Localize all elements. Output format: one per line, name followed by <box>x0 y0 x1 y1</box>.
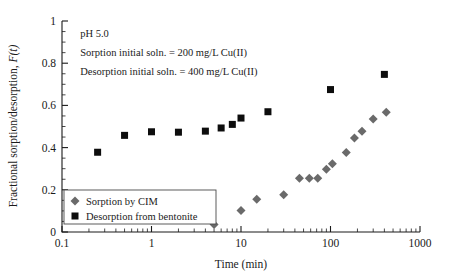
data-point <box>381 71 388 78</box>
legend-label: Sorption by CIM <box>86 196 158 207</box>
data-point <box>175 129 182 136</box>
y-tick-label: 0.2 <box>42 184 57 196</box>
square-marker-icon <box>72 213 79 220</box>
x-tick-label: 100 <box>322 237 340 249</box>
data-point <box>229 121 236 128</box>
annotation-text: Sorption initial soln. = 200 mg/L Cu(II) <box>80 47 247 59</box>
data-point <box>295 174 304 183</box>
x-tick-label: 10 <box>235 237 247 249</box>
data-point <box>252 195 261 204</box>
series-square <box>94 71 388 156</box>
data-point <box>237 206 246 215</box>
data-point <box>369 115 378 124</box>
legend-label: Desorption from bentonite <box>86 211 198 222</box>
data-point <box>305 174 314 183</box>
data-point <box>264 108 271 115</box>
y-tick-label: 0.4 <box>42 142 57 154</box>
data-point <box>238 115 245 122</box>
series-diamond <box>210 108 391 229</box>
data-point <box>202 128 209 135</box>
y-tick-label: 0.8 <box>42 57 57 69</box>
data-point <box>313 174 322 183</box>
y-axis-tick-labels: 00.20.40.60.81 <box>42 15 57 238</box>
data-point <box>279 190 288 199</box>
data-point <box>358 127 367 136</box>
data-point <box>121 132 128 139</box>
data-point <box>327 86 334 93</box>
y-tick-label: 0.6 <box>42 99 57 111</box>
data-point <box>328 159 337 168</box>
chart-legend: Sorption by CIMDesorption from bentonite <box>64 190 216 224</box>
x-tick-label: 0.1 <box>55 237 70 249</box>
x-axis-title: Time (min) <box>215 258 267 271</box>
data-point <box>322 165 331 174</box>
x-axis-tick-labels: 0.11101001000 <box>55 237 432 249</box>
plot-annotations: pH 5.0Sorption initial soln. = 200 mg/L … <box>80 28 258 79</box>
data-point <box>382 108 391 117</box>
chart-figure: 0.11101001000 00.20.40.60.81 pH 5.0Sorpt… <box>0 0 450 280</box>
x-tick-label: 1000 <box>409 237 432 249</box>
data-point <box>218 124 225 131</box>
data-point <box>350 134 359 143</box>
annotation-text: pH 5.0 <box>80 28 109 39</box>
x-tick-label: 1 <box>149 237 155 249</box>
data-point <box>148 128 155 135</box>
annotation-text: Desorption initial soln. = 400 mg/L Cu(I… <box>80 66 258 78</box>
y-axis-title: Fractional sorption/desorption, F(t) <box>7 45 20 208</box>
data-point <box>342 148 351 157</box>
scatter-plot: 0.11101001000 00.20.40.60.81 pH 5.0Sorpt… <box>0 0 450 280</box>
y-tick-label: 1 <box>50 15 56 27</box>
y-tick-label: 0 <box>50 226 56 238</box>
data-point <box>94 149 101 156</box>
